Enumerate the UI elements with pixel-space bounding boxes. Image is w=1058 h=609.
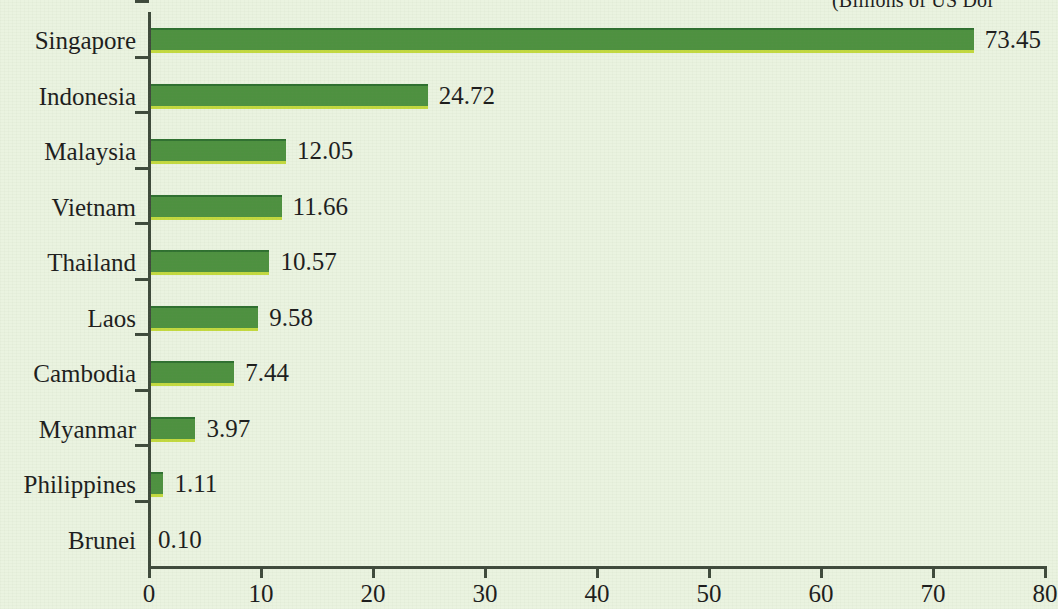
bar [151,139,286,164]
x-axis-tick-label: 80 [1010,580,1058,608]
y-axis-tick [135,111,149,114]
category-label: Vietnam [0,179,136,236]
bar-row: Laos9.58 [0,290,1058,347]
x-axis-tick-label: 10 [226,580,296,608]
x-axis-tick [708,566,711,578]
category-label: Laos [0,290,136,347]
y-axis-tick [135,444,149,447]
x-axis-tick-label: 30 [450,580,520,608]
y-axis-tick [135,500,149,503]
bar-row: Cambodia7.44 [0,345,1058,402]
bar-row: Myanmar3.97 [0,401,1058,458]
bar-fill [151,250,269,275]
y-axis-tick [135,167,149,170]
bar-fill [151,139,286,164]
bar [151,195,282,220]
x-axis-tick [820,566,823,578]
category-label: Philippines [0,456,136,513]
bar-fill [151,472,163,497]
x-axis-tick-label: 50 [674,580,744,608]
y-axis-tick [135,0,149,3]
value-label: 9.58 [269,304,313,332]
x-axis-tick [596,566,599,578]
value-label: 7.44 [245,359,289,387]
category-label: Myanmar [0,401,136,458]
bar-fill [151,361,234,386]
x-axis-tick-label: 20 [338,580,408,608]
y-axis-tick [135,278,149,281]
bar-row: Singapore73.45 [0,12,1058,69]
bar [151,472,163,497]
bar [151,306,258,331]
value-label: 1.11 [174,470,217,498]
value-label: 0.10 [158,526,202,554]
bar [151,250,269,275]
bar-row: Malaysia12.05 [0,123,1058,180]
y-axis-tick [135,56,149,59]
category-label: Indonesia [0,68,136,125]
bar [151,84,428,109]
bar-fill [151,417,195,442]
bar-chart: (Billions of US Dol Singapore73.45Indone… [0,0,1058,609]
value-label: 11.66 [293,193,348,221]
bar [151,417,195,442]
y-axis-tick [135,222,149,225]
bar-fill [151,84,428,109]
x-axis-tick-label: 70 [898,580,968,608]
x-axis-tick [484,566,487,578]
bar [151,361,234,386]
x-axis-tick [372,566,375,578]
bar-fill [151,306,258,331]
bar-row: Vietnam11.66 [0,179,1058,236]
x-axis-tick-label: 60 [786,580,856,608]
category-label: Cambodia [0,345,136,402]
value-label: 12.05 [297,137,353,165]
category-label: Thailand [0,234,136,291]
bar-row: Brunei0.10 [0,512,1058,569]
value-label: 10.57 [280,248,336,276]
x-axis-tick [148,566,151,578]
bar-row: Indonesia24.72 [0,68,1058,125]
bar [151,28,974,53]
bar-row: Philippines1.11 [0,456,1058,513]
category-label: Malaysia [0,123,136,180]
value-label: 3.97 [206,415,250,443]
x-axis-tick-label: 40 [562,580,632,608]
bar-fill [151,28,974,53]
y-axis-tick [135,389,149,392]
x-axis-tick [260,566,263,578]
chart-title: (Billions of US Dol [832,0,993,12]
category-label: Brunei [0,512,136,569]
value-label: 24.72 [439,82,495,110]
bar-row: Thailand10.57 [0,234,1058,291]
x-axis-tick-label: 0 [114,580,184,608]
category-label: Singapore [0,12,136,69]
x-axis-tick [1044,566,1047,578]
y-axis-tick [135,333,149,336]
x-axis-tick [932,566,935,578]
value-label: 73.45 [985,26,1041,54]
bar-fill [151,195,282,220]
